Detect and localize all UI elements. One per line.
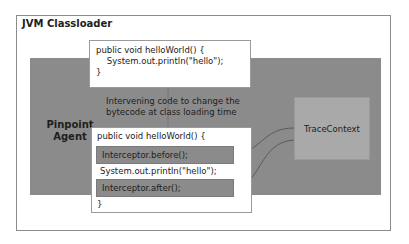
code-line: } [96, 67, 244, 78]
intervening-line1: Intervening code to change the [106, 96, 256, 107]
modified-code-box: public void helloWorld() { Interceptor.b… [91, 127, 252, 213]
code-line: System.out.println("hello"); [100, 166, 217, 177]
original-code-box: public void helloWorld() { System.out.pr… [89, 40, 251, 88]
code-line: } [97, 199, 102, 210]
code-line: public void helloWorld() { [97, 131, 206, 142]
intervening-line2: bytecode at class loading time [106, 107, 256, 118]
code-line: System.out.println("hello"); [96, 56, 244, 67]
intervening-text: Intervening code to change the bytecode … [106, 96, 256, 118]
interceptor-after: Interceptor.after(); [96, 179, 234, 197]
trace-context-label: TraceContext [304, 124, 360, 134]
trace-context-box: TraceContext [294, 97, 370, 160]
interceptor-before: Interceptor.before(); [96, 146, 234, 164]
code-line: public void helloWorld() { [96, 45, 244, 56]
